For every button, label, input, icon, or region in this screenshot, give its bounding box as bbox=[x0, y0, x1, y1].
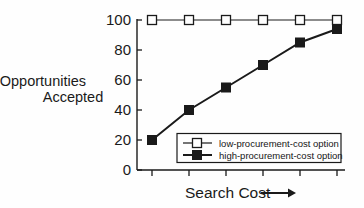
legend-marker-high bbox=[193, 151, 202, 160]
legend-label-low: low-procurement-cost option bbox=[219, 138, 339, 149]
y-axis-title-line1: % Opportunities bbox=[0, 73, 86, 89]
data-point-low-1 bbox=[148, 16, 157, 25]
y-axis-title-line2: Accepted bbox=[43, 89, 103, 105]
chart-figure: % Opportunities Accepted 100 80 60 40 20… bbox=[0, 0, 364, 208]
x-axis-title: Search Cost bbox=[185, 184, 271, 201]
y-tick-label-100: 100 bbox=[106, 11, 131, 28]
chart-canvas: % Opportunities Accepted 100 80 60 40 20… bbox=[0, 0, 364, 208]
legend: low-procurement-cost option high-procure… bbox=[177, 134, 343, 163]
data-point-low-5 bbox=[296, 16, 305, 25]
legend-marker-low bbox=[193, 139, 202, 148]
data-point-high-2 bbox=[185, 106, 194, 115]
y-tick-label-80: 80 bbox=[114, 41, 131, 58]
legend-label-high: high-procurement-cost option bbox=[219, 150, 343, 161]
data-point-high-1 bbox=[148, 136, 157, 145]
data-point-low-3 bbox=[222, 16, 231, 25]
data-point-low-6 bbox=[333, 16, 342, 25]
y-tick-label-20: 20 bbox=[114, 131, 131, 148]
series-line-high-procurement-cost bbox=[152, 29, 337, 140]
y-tick-label-60: 60 bbox=[114, 71, 131, 88]
data-point-high-6 bbox=[333, 25, 342, 34]
data-point-high-4 bbox=[259, 61, 268, 70]
data-point-high-3 bbox=[222, 83, 231, 92]
y-tick-label-0: 0 bbox=[123, 161, 131, 178]
data-point-low-2 bbox=[185, 16, 194, 25]
data-point-high-5 bbox=[296, 38, 305, 47]
y-tick-label-40: 40 bbox=[114, 101, 131, 118]
data-point-low-4 bbox=[259, 16, 268, 25]
